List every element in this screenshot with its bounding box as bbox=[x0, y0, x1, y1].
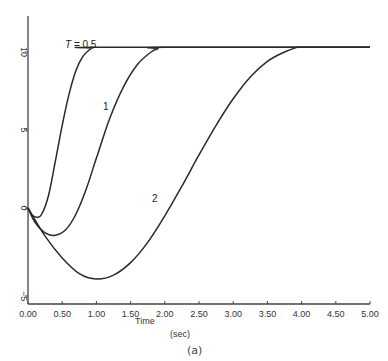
curve-label-t05: T = 0.5 bbox=[65, 39, 97, 50]
x-tick-label: 2.50 bbox=[190, 309, 208, 319]
curve-3 bbox=[28, 47, 370, 279]
figure-caption: (a) bbox=[187, 344, 202, 357]
curve-label-1: 1 bbox=[103, 101, 109, 112]
x-tick-label: 5.00 bbox=[361, 309, 379, 319]
x-axis-unit: (sec) bbox=[170, 329, 190, 339]
x-tick-label: 0.00 bbox=[19, 309, 37, 319]
curve-label-2: 2 bbox=[152, 193, 158, 204]
y-tick-label: 0 bbox=[19, 205, 29, 210]
x-tick-label: 3.50 bbox=[259, 309, 277, 319]
x-tick-label: 2.00 bbox=[156, 309, 174, 319]
x-axis-title: Time bbox=[135, 316, 155, 326]
x-tick-label: 4.00 bbox=[293, 309, 311, 319]
y-tick-label: 5 bbox=[19, 127, 29, 132]
x-tick-label: 4.50 bbox=[327, 309, 345, 319]
x-tick-label: 3.00 bbox=[224, 309, 242, 319]
y-tick-label: −5 bbox=[19, 291, 29, 301]
curve-1 bbox=[28, 47, 370, 217]
line-chart: 0.000.501.001.502.002.503.003.504.004.50… bbox=[0, 0, 388, 361]
curves bbox=[28, 47, 370, 279]
axes: 0.000.501.001.502.002.503.003.504.004.50… bbox=[19, 16, 379, 319]
curve-2 bbox=[28, 47, 370, 235]
x-tick-label: 1.00 bbox=[88, 309, 106, 319]
y-tick-label: 10 bbox=[19, 47, 29, 57]
x-tick-label: 0.50 bbox=[53, 309, 71, 319]
